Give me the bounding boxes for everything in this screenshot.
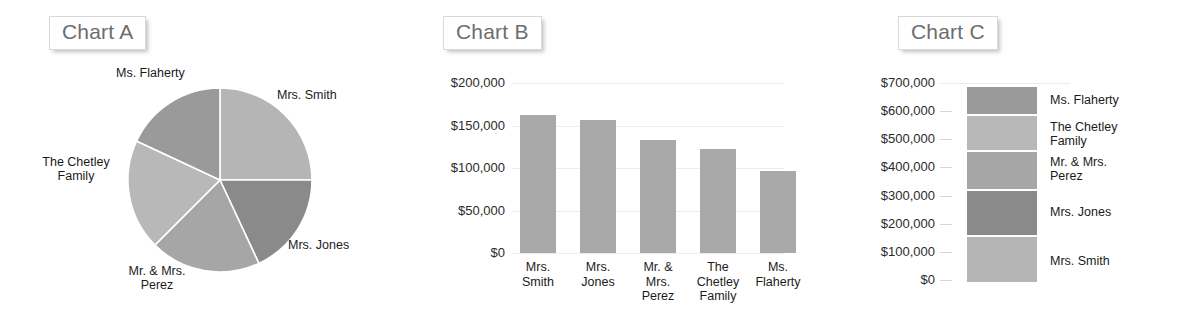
tick-600000 [940,111,952,112]
stack-segment-smith [967,237,1037,283]
bar-chetley [700,149,736,254]
bar-perez [640,140,676,253]
chart-c-legend-smith: Mrs. Smith [1050,254,1110,268]
stack-segment-jones [967,191,1037,235]
chart-c-ytick-600000: $600,000 [855,104,935,118]
chart-b-ytick-200000: $200,000 [425,76,505,90]
bar-flaherty [760,171,796,254]
chart-b-title: Chart B [443,16,542,50]
chart-c-ytick-300000: $300,000 [855,189,935,203]
tick-500000 [940,139,952,140]
charts-figure: Chart A Ms. Flaherty Mrs. Smith The Chet… [0,0,1182,322]
chart-b-ytick-0: $0 [425,246,505,260]
chart-c-legend-jones: Mrs. Jones [1050,205,1111,219]
chart-b-cat-chetley: The Chetley Family [688,260,748,304]
chart-b-cat-smith: Mrs. Smith [508,260,568,289]
chart-c-ytick-400000: $400,000 [855,160,935,174]
stack-segment-flaherty [967,87,1037,114]
gridline-200000 [512,83,784,84]
chart-c-title: Chart C [898,16,998,50]
chart-c-legend-chetley: The Chetley Family [1050,120,1117,148]
pie-label-smith: Mrs. Smith [277,88,337,102]
chart-b-ytick-150000: $150,000 [425,119,505,133]
chart-c-legend-perez: Mr. & Mrs. Perez [1050,155,1107,183]
chart-c-ytick-0: $0 [855,273,935,287]
chart-a-title: Chart A [49,16,146,50]
chart-c-legend-flaherty: Ms. Flaherty [1050,93,1119,107]
tick-200000 [940,224,952,225]
tick-100000 [940,252,952,253]
chart-b-cat-flaherty: Ms. Flaherty [746,260,810,289]
chart-b-cat-jones: Mrs. Jones [568,260,628,289]
bar-jones [580,120,616,254]
chart-b-ytick-50000: $50,000 [425,204,505,218]
pie-label-jones: Mrs. Jones [288,238,349,252]
chart-c-ytick-500000: $500,000 [855,132,935,146]
chart-b-cat-perez: Mr. & Mrs. Perez [628,260,688,304]
bar-smith [520,115,556,254]
gridline-700000 [940,83,1070,84]
chart-c-ytick-700000: $700,000 [855,76,935,90]
pie-label-flaherty: Ms. Flaherty [116,66,185,80]
chart-c-ytick-100000: $100,000 [855,245,935,259]
pie-label-chetley: The Chetley Family [34,155,118,183]
chart-c-ytick-200000: $200,000 [855,217,935,231]
stack-segment-perez [967,152,1037,189]
tick-400000 [940,167,952,168]
tick-0 [940,280,952,281]
stack-segment-chetley [967,116,1037,151]
pie-label-perez: Mr. & Mrs. Perez [113,264,201,292]
gridline-0 [512,253,784,254]
tick-300000 [940,196,952,197]
chart-b-ytick-100000: $100,000 [425,161,505,175]
